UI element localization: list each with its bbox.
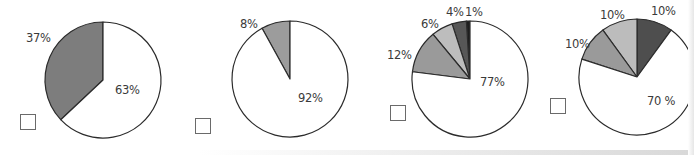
right-edge-shadow [688,0,694,155]
pie-slice-label: 4% [446,5,464,19]
pie-slice [232,21,348,137]
pie-slice-label: 37% [26,31,51,45]
answer-checkbox-2[interactable] [195,118,211,134]
pie-chart-3 [412,21,528,137]
answer-checkbox-4[interactable] [550,98,566,114]
pie-chart-1 [45,22,161,138]
pie-slice-label: 8% [240,17,258,31]
pie-chart-2 [232,21,348,137]
pie-slice-label: 70 % [647,94,675,108]
answer-checkbox-1[interactable] [20,114,36,130]
pie-slice-label: 10% [600,8,625,22]
pie-slice-label: 63% [115,83,140,97]
pie-slice-label: 12% [387,48,412,62]
pie-slice-label: 1% [465,5,483,19]
answer-checkbox-3[interactable] [390,105,406,121]
pie-slice-label: 10% [565,37,590,51]
pie-slice-label: 92% [298,91,323,105]
pie-chart-4 [579,19,694,135]
bottom-edge-shadow [200,150,694,155]
pie-charts-canvas [0,0,694,155]
pie-slice-label: 6% [421,17,439,31]
pie-slice-label: 10% [651,4,676,18]
pie-slice-label: 77% [480,75,505,89]
